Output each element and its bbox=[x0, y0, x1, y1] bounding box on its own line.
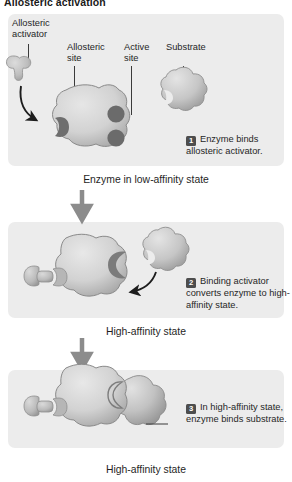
panel-3-step-text: 3In high-affinity state, enzyme binds su… bbox=[186, 402, 292, 426]
step-3-description: In high-affinity state, enzyme binds sub… bbox=[186, 402, 287, 424]
step-badge-3: 3 bbox=[186, 404, 196, 414]
step-badge-1: 1 bbox=[186, 136, 196, 146]
shape-substrate-free-1 bbox=[161, 67, 207, 110]
shape-enzyme-high-affinity-3 bbox=[53, 364, 127, 426]
binding-arrow-2 bbox=[131, 272, 156, 292]
shape-substrate-free-2 bbox=[143, 227, 189, 270]
panel-3: High-affinity state 3In high-affinity st… bbox=[0, 352, 292, 482]
panel-3-state-label: High-affinity state bbox=[0, 464, 292, 475]
panel-1-step-text: 1Enzyme binds allosteric activator. bbox=[186, 134, 292, 158]
shape-enzyme-high-affinity-2 bbox=[53, 234, 127, 296]
shape-enzyme-low-affinity bbox=[53, 85, 130, 147]
panel-1: Allosteric activator Allosteric site Act… bbox=[0, 14, 292, 204]
panel-1-state-label: Enzyme in low-affinity state bbox=[0, 174, 292, 185]
shape-allosteric-activator-bound-2 bbox=[24, 266, 53, 286]
shape-allosteric-activator-bound-3 bbox=[24, 396, 53, 416]
active-site-lobe-upper-1 bbox=[107, 105, 124, 122]
figure-title: Allosteric activation bbox=[4, 0, 106, 8]
allosteric-site-notch-2 bbox=[53, 268, 67, 286]
step-1-description: Enzyme binds allosteric activator. bbox=[186, 134, 262, 156]
transition-arrow-1 bbox=[0, 188, 292, 224]
step-badge-2: 2 bbox=[186, 278, 196, 288]
shape-allosteric-activator bbox=[6, 56, 30, 80]
allosteric-activation-figure: Allosteric activation Allosteric activat… bbox=[0, 0, 292, 482]
allosteric-site-notch-3 bbox=[53, 398, 67, 416]
active-site-lobe-lower-1 bbox=[107, 129, 124, 146]
binding-arrow-1 bbox=[20, 86, 36, 120]
panel-2-step-text: 2Binding activator converts enzyme to hi… bbox=[186, 276, 292, 311]
step-2-description: Binding activator converts enzyme to hig… bbox=[186, 276, 290, 310]
panel-2: High-affinity state 2Binding activator c… bbox=[0, 222, 292, 340]
